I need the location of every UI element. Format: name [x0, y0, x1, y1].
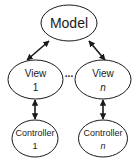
node-view-1-index: 1 — [33, 82, 39, 93]
node-view-n-index: n — [100, 82, 106, 93]
node-controller-1-index: 1 — [32, 141, 37, 151]
node-model: Model — [41, 5, 97, 41]
node-view-n-label: View — [92, 68, 114, 79]
node-view-1-label: View — [25, 68, 47, 79]
ellipsis: ... — [65, 68, 74, 79]
node-view-n: View n — [75, 60, 131, 99]
mvc-diagram: Model View 1 ... View n Controller 1 Con… — [0, 0, 140, 162]
node-controller-n: Controller n — [79, 120, 128, 157]
node-controller-n-label: Controller — [83, 128, 122, 138]
edge-model-view-n — [89, 41, 105, 60]
node-controller-n-index: n — [100, 141, 105, 151]
node-controller-1-label: Controller — [15, 128, 54, 138]
node-model-label: Model — [50, 15, 88, 31]
node-controller-1: Controller 1 — [12, 120, 58, 157]
node-view-1: View 1 — [8, 60, 63, 99]
edge-model-view-1 — [27, 41, 49, 60]
